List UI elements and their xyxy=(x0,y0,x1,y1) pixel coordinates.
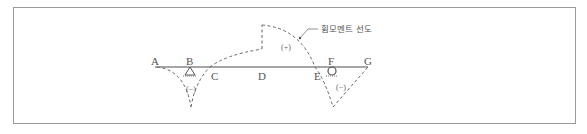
point-label-g: G xyxy=(364,55,372,67)
sign-negative-right: (−) xyxy=(336,83,346,92)
point-label-d: D xyxy=(258,70,266,82)
point-label-c: C xyxy=(211,70,218,82)
roller-support-icon xyxy=(326,67,338,76)
annotation-leader xyxy=(299,29,318,39)
point-label-e: E xyxy=(314,70,321,82)
annotation-label: 휨모멘트 선도 xyxy=(321,24,372,34)
point-label-f: F xyxy=(328,55,334,67)
sign-positive: (+) xyxy=(281,43,291,52)
point-label-a: A xyxy=(151,55,159,67)
pin-support-icon xyxy=(183,67,197,76)
bending-moment-diagram: 휨모멘트 선도 A B C D E F G (+) (−) (−) xyxy=(0,0,587,134)
sign-negative-left: (−) xyxy=(186,85,196,94)
positive-moment-curve-cd xyxy=(210,49,262,67)
point-label-b: B xyxy=(186,55,193,67)
